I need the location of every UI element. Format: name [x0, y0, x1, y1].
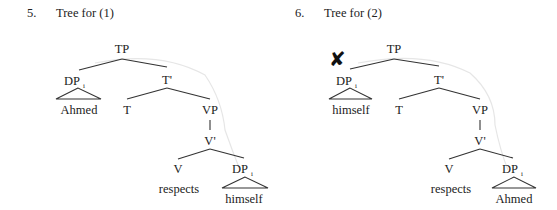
node-tbar: T'	[162, 73, 172, 87]
edge-tbar-vp	[167, 88, 210, 99]
subject-word: Ahmed	[61, 103, 99, 117]
triangle-object	[492, 177, 536, 188]
node-vp: VP	[202, 103, 218, 117]
triangle-subject	[329, 88, 372, 99]
tree-5: TP DP i Ahmed T' T VP V' V respects DP i…	[56, 42, 268, 206]
edge-vbar-v	[449, 149, 480, 159]
node-tbar: T'	[434, 73, 444, 87]
edge-tbar-t	[127, 88, 167, 99]
node-t: T	[395, 103, 403, 117]
syntax-trees: TP DP i Ahmed T' T VP V' V respects DP i…	[0, 0, 557, 210]
object-word: himself	[225, 192, 263, 206]
verb-word: respects	[159, 182, 199, 196]
subject-index: i	[355, 82, 357, 90]
node-vbar: V'	[474, 134, 485, 148]
triangle-subject	[56, 88, 101, 99]
node-object-dp: DP	[502, 162, 518, 176]
node-tp: TP	[115, 42, 130, 56]
object-word: Ahmed	[496, 192, 534, 206]
verb-word: respects	[431, 182, 471, 196]
edge-tp-dp	[79, 59, 122, 70]
ungrammatical-x-icon: ✘	[329, 47, 346, 71]
node-v: V	[173, 162, 182, 176]
node-tp: TP	[387, 42, 402, 56]
tree-6: ✘ TP DP i himself T' T VP V' V respects …	[329, 42, 536, 206]
edge-vbar-v	[178, 149, 210, 159]
edge-vbar-dp	[480, 149, 513, 158]
triangle-object	[222, 177, 268, 188]
node-v: V	[444, 162, 453, 176]
node-vp: VP	[472, 103, 488, 117]
object-index: i	[521, 170, 523, 178]
node-subject-dp: DP	[336, 74, 352, 88]
node-t: T	[123, 103, 131, 117]
node-object-dp: DP	[232, 162, 248, 176]
edge-tbar-vp	[439, 88, 480, 99]
subject-index: i	[83, 82, 85, 90]
node-vbar: V'	[204, 134, 215, 148]
subject-word: himself	[332, 103, 370, 117]
edge-tbar-t	[399, 88, 439, 99]
edge-vbar-dp	[210, 149, 244, 158]
object-index: i	[251, 170, 253, 178]
node-subject-dp: DP	[64, 74, 80, 88]
